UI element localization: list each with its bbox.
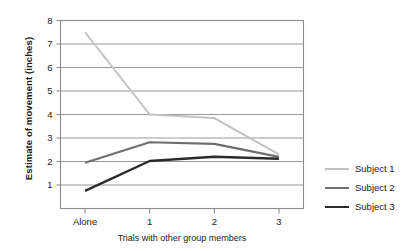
y-tick-label: 1 xyxy=(47,179,52,190)
x-tick-label: 1 xyxy=(147,216,152,227)
legend-item[interactable]: Subject 1 xyxy=(325,163,395,175)
y-tick-label: 5 xyxy=(47,85,52,96)
line-chart-plot-area: 12345678 Alone123 xyxy=(0,0,405,251)
x-axis-title: Trials with other group members xyxy=(60,233,304,243)
x-axis-ticks: Alone123 xyxy=(73,209,282,227)
legend-label: Subject 3 xyxy=(355,201,395,213)
x-tick-label: 2 xyxy=(212,216,217,227)
x-tick-label: 3 xyxy=(276,216,281,227)
legend-color-swatch xyxy=(325,187,349,189)
y-tick-label: 2 xyxy=(47,156,52,167)
legend-item[interactable]: Subject 3 xyxy=(325,201,395,213)
legend-color-swatch xyxy=(325,168,349,170)
x-tick-label: Alone xyxy=(73,216,97,227)
gridlines xyxy=(61,21,304,186)
chart-figure: Estimate of movement (inches) 12345678 A… xyxy=(0,0,405,251)
y-tick-label: 7 xyxy=(47,38,52,49)
legend-item[interactable]: Subject 2 xyxy=(325,182,395,194)
y-tick-label: 4 xyxy=(47,109,52,120)
y-axis-ticks: 12345678 xyxy=(47,15,60,191)
y-tick-label: 8 xyxy=(47,15,52,26)
legend-color-swatch xyxy=(325,206,349,208)
legend-label: Subject 2 xyxy=(355,182,395,194)
series-line xyxy=(85,32,279,154)
legend-label: Subject 1 xyxy=(355,163,395,175)
data-series-group xyxy=(85,32,279,191)
chart-legend: Subject 1Subject 2Subject 3 xyxy=(325,163,395,213)
y-tick-label: 3 xyxy=(47,132,52,143)
y-tick-label: 6 xyxy=(47,62,52,73)
